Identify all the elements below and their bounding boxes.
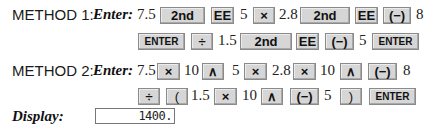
key-divide[interactable]: ÷ — [138, 88, 160, 105]
keystroke-number: 10 — [242, 87, 257, 104]
keystroke-number: 5 — [232, 62, 240, 79]
key-multiply[interactable]: × — [157, 63, 180, 80]
key-2nd[interactable]: 2nd — [160, 7, 205, 24]
key-divide[interactable]: ÷ — [191, 33, 213, 50]
key-open-paren[interactable]: ( — [166, 88, 188, 105]
method-2-label: METHOD 2: — [12, 62, 94, 79]
key-power[interactable]: ∧ — [340, 63, 362, 80]
key-negative[interactable]: (−) — [383, 7, 411, 24]
key-multiply[interactable]: × — [253, 7, 275, 24]
key-power[interactable]: ∧ — [261, 88, 283, 105]
key-ee[interactable]: EE — [296, 33, 319, 50]
key-negative[interactable]: (−) — [325, 33, 354, 50]
method-1-label: METHOD 1: — [12, 6, 94, 23]
keystroke-number: 7.5 — [137, 62, 156, 79]
keystroke-number: 5 — [324, 87, 332, 104]
key-multiply[interactable]: × — [293, 63, 316, 80]
key-multiply[interactable]: × — [214, 88, 237, 105]
keystroke-number: 1.5 — [191, 87, 210, 104]
keystroke-number: 2.8 — [279, 6, 298, 23]
key-enter[interactable]: ENTER — [138, 33, 185, 50]
key-multiply[interactable]: × — [244, 63, 267, 80]
key-2nd[interactable]: 2nd — [240, 33, 292, 50]
key-ee[interactable]: EE — [355, 7, 378, 24]
keystroke-number: 8 — [416, 6, 424, 23]
keystroke-number: 10 — [184, 62, 199, 79]
key-close-paren[interactable]: ) — [340, 88, 362, 105]
key-enter[interactable]: ENTER — [369, 88, 416, 105]
keystroke-number: 10 — [320, 62, 335, 79]
method-2-enter-label: Enter: — [93, 62, 133, 79]
key-negative[interactable]: (−) — [368, 63, 397, 80]
key-enter[interactable]: ENTER — [372, 33, 419, 50]
display-label: Display: — [12, 108, 64, 125]
keystroke-number: 1.5 — [218, 32, 237, 49]
key-2nd[interactable]: 2nd — [300, 7, 350, 24]
keystroke-number: 8 — [403, 62, 411, 79]
key-ee[interactable]: EE — [211, 7, 234, 24]
keystroke-number: 2.8 — [272, 62, 291, 79]
keystroke-number: 7.5 — [137, 6, 156, 23]
method-1-enter-label: Enter: — [93, 6, 133, 23]
calculator-display: 1400. — [95, 108, 175, 124]
keystroke-number: 5 — [240, 6, 248, 23]
key-negative[interactable]: (−) — [290, 88, 319, 105]
keystroke-number: 5 — [359, 32, 367, 49]
key-power[interactable]: ∧ — [202, 63, 224, 80]
